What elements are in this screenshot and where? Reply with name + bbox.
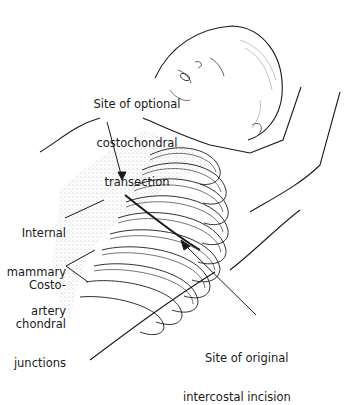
label-line: Site of optional xyxy=(72,98,202,111)
label-line: Site of original xyxy=(183,352,333,365)
label-line: junctions xyxy=(0,357,66,370)
label-line: costochondral xyxy=(72,137,202,150)
label-costochondral-transection: Site of optional costochondral transecti… xyxy=(72,72,202,215)
label-line: intercostal incision xyxy=(183,391,333,404)
label-original-intercostal-incision: Site of original intercostal incision xyxy=(183,326,333,405)
label-line: chondral xyxy=(0,318,66,331)
label-line: Costo- xyxy=(0,279,66,292)
label-line: Internal xyxy=(0,227,66,240)
label-costochondral-junctions: Costo- chondral junctions xyxy=(0,253,66,396)
label-line: transection xyxy=(72,176,202,189)
